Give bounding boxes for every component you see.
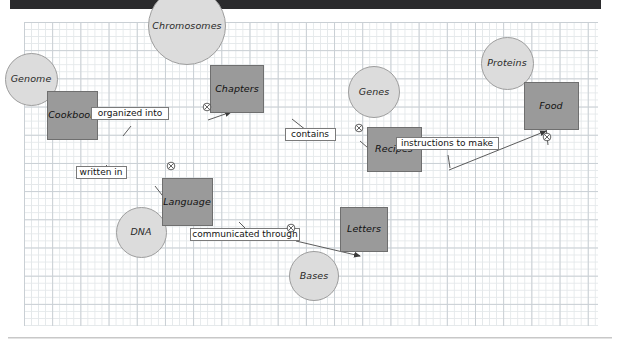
edge-label-text: communicated through [192, 230, 297, 239]
node-language[interactable]: Language [162, 178, 213, 226]
node-label: Genome [11, 74, 52, 84]
edge-label-text: written in [80, 168, 123, 177]
circled-x-icon[interactable] [166, 161, 176, 171]
edge-label-contains[interactable]: contains [285, 128, 336, 141]
circled-x-icon[interactable] [202, 102, 212, 112]
edge-label-written-in[interactable]: written in [76, 166, 127, 179]
edge-line-organized-into-a [123, 126, 131, 136]
node-label: Letters [347, 224, 381, 234]
node-letters[interactable]: Letters [340, 207, 388, 252]
circled-x-icon[interactable] [542, 132, 552, 142]
edge-label-communicated-through[interactable]: communicated through [190, 228, 300, 241]
edge-line-instructions-a [448, 155, 450, 168]
node-label: Genes [359, 87, 390, 97]
node-label: Chromosomes [152, 21, 221, 31]
node-label: Language [163, 197, 211, 207]
circled-x-icon[interactable] [354, 123, 364, 133]
node-label: DNA [130, 227, 151, 237]
circled-x-icon[interactable] [286, 223, 296, 233]
node-label: Food [539, 101, 563, 111]
edge-label-text: instructions to make [401, 139, 493, 148]
node-label: Proteins [487, 58, 526, 68]
edge-label-text: contains [291, 130, 329, 139]
node-label: Cookbook [48, 110, 96, 120]
node-bases[interactable]: Bases [289, 251, 339, 301]
edge-label-instructions-to-make[interactable]: instructions to make [396, 137, 499, 150]
node-dna[interactable]: DNA [116, 207, 167, 258]
node-chapters[interactable]: Chapters [210, 65, 264, 113]
diagram-canvas: Genome Chromosomes Genes Proteins DNA Ba… [0, 0, 620, 345]
node-label: Chapters [215, 84, 259, 94]
bottom-divider-shadow [8, 338, 612, 339]
edge-line-organized-into-b [208, 112, 231, 120]
node-cookbook[interactable]: Cookbook [47, 91, 98, 140]
edge-label-organized-into[interactable]: organized into [91, 107, 169, 120]
edge-label-text: organized into [98, 109, 163, 118]
node-food[interactable]: Food [524, 82, 579, 130]
node-label: Bases [300, 271, 329, 281]
node-genes[interactable]: Genes [348, 66, 400, 118]
